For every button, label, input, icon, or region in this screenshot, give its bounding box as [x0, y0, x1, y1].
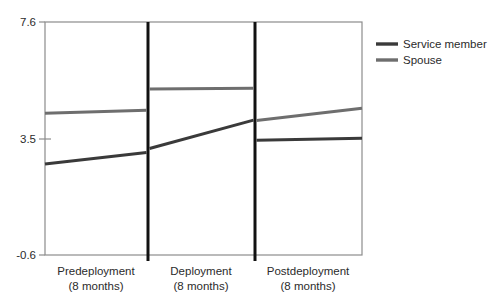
chart-container: 7.6 3.5 -0.6 Predeployment (8 months) De… [0, 0, 499, 299]
legend-label-service-member: Service member [403, 38, 487, 50]
ytick-label-top: 7.6 [20, 16, 36, 28]
xaxis-category-1-label: Predeployment [57, 265, 135, 277]
line-chart: 7.6 3.5 -0.6 Predeployment (8 months) De… [0, 0, 499, 299]
legend-label-spouse: Spouse [403, 54, 442, 66]
xaxis-category-2-label: Deployment [170, 265, 232, 277]
spouse-segment-deployment [150, 88, 254, 89]
ytick-label-bottom: -0.6 [16, 249, 36, 261]
xaxis-category-1-sublabel: (8 months) [69, 280, 124, 292]
xaxis-category-2-sublabel: (8 months) [174, 280, 229, 292]
service-member-segment-postdeployment [257, 138, 363, 140]
xaxis-category-3-sublabel: (8 months) [281, 280, 336, 292]
chart-legend: Service member Spouse [376, 38, 487, 66]
xaxis-category-3-label: Postdeployment [267, 265, 350, 277]
ytick-label-mid: 3.5 [20, 133, 36, 145]
